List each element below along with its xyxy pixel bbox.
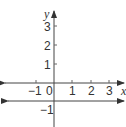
y-tick-label: 1 [44,58,51,72]
x-tick-label: 0 [46,84,53,98]
y-axis-label: y [43,7,50,21]
y-tick-label: 2 [44,39,51,53]
x-tick-label: 3 [106,84,113,98]
x-axis-label: x [120,84,126,98]
x-tick-label: 2 [88,84,95,98]
x-tick-label: −1 [28,84,42,98]
y-tick-label: 3 [44,20,51,34]
y-tick-label: −1 [40,103,54,117]
x-tick-label: 1 [69,84,76,98]
coordinate-graph: y x −1 0 1 2 3 3 2 1 −1 [0,0,126,127]
